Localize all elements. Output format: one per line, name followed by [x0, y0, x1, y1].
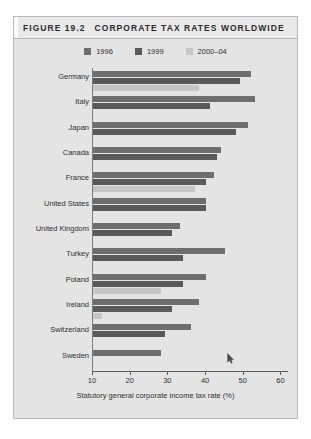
x-axis-tick [167, 372, 168, 375]
bar-1999 [93, 230, 172, 236]
bar-group: Germany [93, 68, 288, 93]
x-axis-tick-label: 10 [88, 376, 96, 385]
category-label: Switzerland [50, 325, 89, 334]
bar-1996 [93, 147, 221, 153]
bar-1996 [93, 248, 225, 254]
bar-group: France [93, 169, 288, 194]
bar-1996 [93, 122, 248, 128]
chart-panel: 199619992000–04 GermanyItalyJapanCanadaF… [13, 38, 298, 419]
bar-1999 [93, 331, 165, 337]
chart-legend: 199619992000–04 [14, 47, 297, 56]
bar-group: United Kingdom [93, 220, 288, 245]
bar-1999 [93, 255, 183, 261]
bar-group: Japan [93, 119, 288, 144]
bar-1999 [93, 78, 240, 84]
bar-200004 [93, 186, 195, 192]
category-label: Canada [63, 148, 89, 157]
x-axis-tick-label: 30 [163, 376, 171, 385]
bar-1999 [93, 129, 236, 135]
legend-label: 1996 [96, 47, 113, 56]
legend-label: 2000–04 [198, 47, 227, 56]
x-axis-tick-label: 60 [276, 376, 284, 385]
plot-area: GermanyItalyJapanCanadaFranceUnited Stat… [92, 68, 288, 372]
figure-title: CORPORATE TAX RATES WORLDWIDE [95, 23, 285, 33]
bar-1999 [93, 179, 206, 185]
bar-1996 [93, 350, 161, 356]
legend-swatch-icon [84, 48, 91, 55]
bar-1996 [93, 299, 199, 305]
category-label: United Kingdom [36, 224, 89, 233]
bar-group: Sweden [93, 347, 288, 372]
bar-200004 [93, 313, 102, 319]
bar-1999 [93, 306, 172, 312]
x-axis-tick [280, 372, 281, 375]
bar-1999 [93, 281, 183, 287]
category-label: France [66, 173, 89, 182]
bar-1996 [93, 274, 206, 280]
bar-group: Ireland [93, 296, 288, 321]
figure-container: FIGURE 19.2 CORPORATE TAX RATES WORLDWID… [13, 16, 298, 419]
x-axis-tick-label: 50 [239, 376, 247, 385]
bar-group: United States [93, 195, 288, 220]
category-label: Italy [75, 97, 89, 106]
legend-label: 1999 [147, 47, 164, 56]
category-label: Germany [58, 72, 89, 81]
x-axis-tick-label: 40 [201, 376, 209, 385]
bar-1996 [93, 223, 180, 229]
bar-1999 [93, 154, 217, 160]
bar-group: Poland [93, 271, 288, 296]
bar-200004 [93, 288, 161, 294]
bar-group: Italy [93, 93, 288, 118]
figure-title-bar: FIGURE 19.2 CORPORATE TAX RATES WORLDWID… [13, 16, 298, 38]
x-axis-tick [130, 372, 131, 375]
bar-group: Canada [93, 144, 288, 169]
bar-200004 [93, 85, 199, 91]
x-axis-tick [205, 372, 206, 375]
bar-group: Switzerland [93, 321, 288, 346]
x-axis-title: Statutory general corporate income tax r… [14, 391, 297, 400]
category-label: Ireland [66, 300, 89, 309]
figure-number: FIGURE 19.2 [23, 23, 86, 33]
legend-swatch-icon [135, 48, 142, 55]
bar-group: Turkey [93, 245, 288, 270]
category-label: Turkey [66, 249, 89, 258]
category-label: Japan [69, 123, 89, 132]
legend-item: 2000–04 [186, 47, 227, 56]
x-axis-tick-label: 20 [126, 376, 134, 385]
bar-1996 [93, 71, 251, 77]
x-axis-tick [243, 372, 244, 375]
bar-1996 [93, 172, 214, 178]
bar-1999 [93, 103, 210, 109]
category-label: United States [44, 199, 89, 208]
bar-1999 [93, 205, 206, 211]
category-label: Sweden [62, 351, 89, 360]
bar-1996 [93, 96, 255, 102]
legend-item: 1996 [84, 47, 113, 56]
bar-1996 [93, 198, 206, 204]
bar-1996 [93, 324, 191, 330]
title-accent-bar [14, 17, 18, 38]
category-label: Poland [66, 275, 89, 284]
legend-swatch-icon [186, 48, 193, 55]
legend-item: 1999 [135, 47, 164, 56]
x-axis-tick [92, 372, 93, 375]
